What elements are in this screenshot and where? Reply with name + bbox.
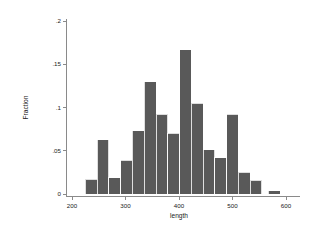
- histogram-bar: [215, 158, 227, 194]
- x-axis-title: length: [170, 212, 188, 220]
- histogram-bar: [109, 178, 121, 194]
- bars-group: [85, 50, 280, 194]
- histogram-bar: [180, 50, 192, 194]
- histogram-figure: 0.05.1.15.2200300400500600lengthFraction: [0, 0, 327, 236]
- x-tick-label: 200: [67, 202, 78, 209]
- y-axis-title: Fraction: [22, 95, 29, 119]
- histogram-bar: [121, 160, 133, 194]
- histogram-bar: [238, 172, 250, 194]
- y-tick-label: .05: [52, 147, 61, 154]
- x-tick-label: 600: [281, 202, 292, 209]
- y-tick-label: 0: [58, 190, 62, 197]
- histogram-bar: [227, 114, 239, 194]
- histogram-bar: [156, 114, 168, 194]
- histogram-bar: [85, 179, 97, 194]
- y-tick-label: .1: [56, 104, 62, 111]
- x-tick-label: 400: [174, 202, 185, 209]
- x-tick-label: 300: [120, 202, 131, 209]
- histogram-bar: [268, 191, 280, 194]
- x-tick-label: 500: [227, 202, 238, 209]
- histogram-bar: [191, 103, 203, 194]
- histogram-bar: [144, 82, 156, 194]
- histogram-bar: [203, 150, 215, 194]
- histogram-bar: [97, 140, 109, 195]
- histogram-bar: [250, 180, 262, 194]
- histogram-bar: [168, 133, 180, 194]
- histogram-plot: 0.05.1.15.2200300400500600lengthFraction: [0, 0, 327, 236]
- histogram-bar: [132, 131, 144, 194]
- y-tick-label: .2: [56, 17, 62, 24]
- y-tick-label: .15: [52, 60, 61, 67]
